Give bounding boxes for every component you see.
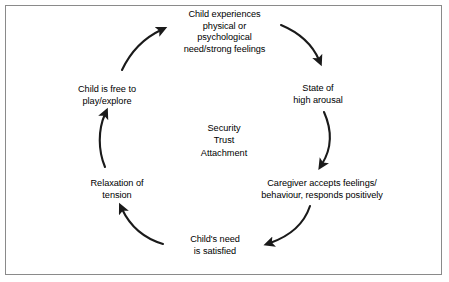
arrow-left-lower-to-left-upper-icon [100, 114, 105, 167]
node-line: physical or [0, 21, 449, 33]
center-label-security-trust-attachment: Security Trust Attachment [162, 122, 286, 159]
node-line: behaviour, responds positively [224, 190, 420, 202]
node-state-of-high-arousal: State of high arousal [259, 83, 377, 106]
center-line-trust: Trust [162, 134, 286, 146]
node-line: Caregiver accepts feelings/ [224, 178, 420, 190]
node-line: tension [58, 190, 176, 202]
node-line: Relaxation of [58, 178, 176, 190]
node-line: psychological [0, 32, 449, 44]
node-child-experiences-need: Child experiences physical or psychologi… [0, 9, 449, 55]
node-relaxation-of-tension: Relaxation of tension [58, 178, 176, 201]
attachment-cycle-diagram: Child experiences physical or psychologi… [0, 0, 449, 282]
node-line: Child's need [135, 234, 295, 246]
node-line: Child experiences [0, 9, 449, 21]
node-line: play/explore [48, 96, 166, 108]
node-childs-need-is-satisfied: Child's need is satisfied [135, 234, 295, 257]
node-child-is-free-to-play: Child is free to play/explore [48, 84, 166, 107]
node-line: is satisfied [135, 246, 295, 258]
node-caregiver-accepts-feelings: Caregiver accepts feelings/ behaviour, r… [224, 178, 420, 201]
center-line-security: Security [162, 122, 286, 134]
node-line: high arousal [259, 95, 377, 107]
node-line: Child is free to [48, 84, 166, 96]
node-line: need/strong feelings [0, 44, 449, 56]
node-line: State of [259, 83, 377, 95]
arrow-right-upper-to-right-lower-icon [322, 112, 330, 164]
center-line-attachment: Attachment [162, 147, 286, 159]
